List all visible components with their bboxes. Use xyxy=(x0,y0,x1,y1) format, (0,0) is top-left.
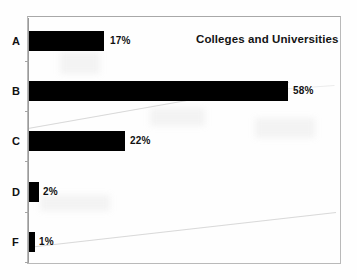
bar-a xyxy=(29,31,104,51)
bar-f xyxy=(29,232,35,252)
bar-value-f: 1% xyxy=(39,235,54,249)
category-label-a: A xyxy=(12,33,20,49)
bar-value-b: 58% xyxy=(293,84,314,98)
category-label-d: D xyxy=(12,184,20,200)
bar-d xyxy=(29,182,39,202)
bar-b xyxy=(29,81,288,101)
category-label-f: F xyxy=(12,234,19,250)
bar-value-a: 17% xyxy=(110,34,131,48)
scanned-page-background: A 17% B 58% C 22% D 2% F 1% Colleges and… xyxy=(0,0,357,280)
bar-c xyxy=(29,131,125,151)
chart-title: Colleges and Universities xyxy=(196,33,338,45)
category-label-b: B xyxy=(12,83,20,99)
bar-value-d: 2% xyxy=(43,185,58,199)
category-label-c: C xyxy=(12,133,20,149)
bar-value-c: 22% xyxy=(130,134,151,148)
